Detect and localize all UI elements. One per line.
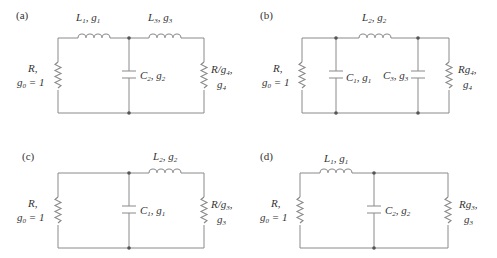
load-label: R/g3, — [210, 198, 233, 212]
series-label: L1, g1 — [323, 152, 348, 166]
capacitor-icon — [122, 71, 136, 78]
panel-b: (b) L2, g2 C1, g1 C3, g3 R, g0 = 1 Rg4, … — [260, 9, 477, 115]
resistor-icon — [299, 62, 305, 88]
junction-node — [127, 36, 131, 40]
source-label: R, — [27, 62, 38, 74]
panel-d: (d) L1, g1 C2, g2 R, g0 = 1 Rg3, g3 — [260, 150, 478, 250]
inductor-icon — [320, 169, 352, 173]
series-label: L2, g2 — [361, 11, 387, 25]
capacitor-icon — [122, 206, 136, 213]
capacitor-icon — [329, 71, 343, 78]
shunt-label: C2, g2 — [385, 204, 411, 218]
junction-node — [416, 36, 420, 40]
inductor-icon — [149, 169, 181, 173]
source-label: g0 = 1 — [262, 76, 289, 90]
inductor-icon — [359, 34, 391, 38]
load-label: g3 — [464, 213, 474, 227]
inductor-icon — [78, 34, 110, 38]
panel-a: (a) L1, g1 L3, g3 C2, g2 R, g0 = 1 R/g4,… — [16, 9, 233, 115]
panel-b-tag: (b) — [260, 9, 273, 22]
junction-node — [334, 111, 338, 115]
load-label: Rg4, — [457, 63, 477, 77]
load-label: R/g4, — [210, 63, 233, 77]
source-label: g0 = 1 — [17, 76, 44, 90]
source-label: g0 = 1 — [260, 211, 287, 225]
capacitor-icon — [411, 71, 425, 78]
source-label: R, — [272, 62, 283, 74]
resistor-icon — [201, 197, 207, 223]
junction-node — [372, 171, 376, 175]
wire — [302, 38, 449, 113]
wire — [58, 173, 204, 248]
inductor-icon — [149, 34, 181, 38]
panel-a-tag: (a) — [16, 9, 29, 22]
load-label: g4 — [217, 78, 227, 92]
source-label: g0 = 1 — [17, 211, 44, 225]
panel-d-tag: (d) — [260, 150, 273, 163]
panel-c-tag: (c) — [22, 150, 35, 163]
load-label: g4 — [463, 78, 473, 92]
resistor-icon — [446, 62, 452, 88]
resistor-icon — [297, 197, 303, 223]
resistor-icon — [55, 62, 61, 88]
junction-node — [372, 246, 376, 250]
source-label: R, — [270, 197, 281, 209]
ladder-filter-diagrams: (a) L1, g1 L3, g3 C2, g2 R, g0 = 1 R/g4,… — [0, 0, 497, 258]
junction-node — [334, 36, 338, 40]
series-label: L3, g3 — [147, 11, 173, 25]
junction-node — [127, 171, 131, 175]
resistor-icon — [55, 197, 61, 223]
junction-node — [416, 111, 420, 115]
load-label: Rg3, — [458, 198, 478, 212]
shunt-label: C2, g2 — [140, 69, 166, 83]
series-label: L2, g2 — [152, 150, 178, 164]
shunt-label: C3, g3 — [383, 69, 409, 83]
junction-node — [127, 111, 131, 115]
panel-c: (c) L2, g2 C1, g1 R, g0 = 1 R/g3, g3 — [17, 150, 233, 250]
source-label: R, — [27, 197, 38, 209]
wire — [58, 38, 204, 113]
series-label: L1, g1 — [75, 11, 100, 25]
resistor-icon — [445, 197, 451, 223]
junction-node — [127, 246, 131, 250]
load-label: g3 — [217, 213, 227, 227]
capacitor-icon — [367, 206, 381, 213]
shunt-label: C1, g1 — [346, 71, 371, 85]
resistor-icon — [201, 62, 207, 88]
shunt-label: C1, g1 — [140, 204, 165, 218]
